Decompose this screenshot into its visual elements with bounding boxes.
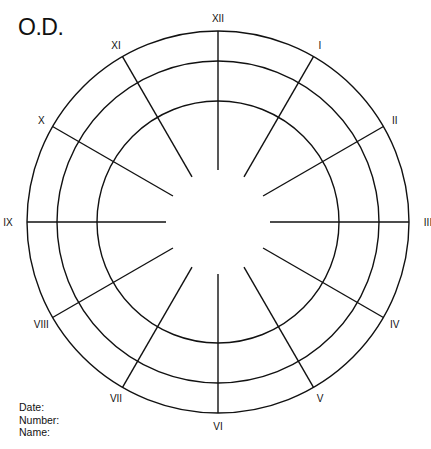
patient-info-block: Date: Number: Name: <box>19 401 59 439</box>
spoke-ii <box>263 127 383 197</box>
name-label: Name: <box>19 426 59 439</box>
hour-label-xi: XI <box>111 40 120 51</box>
hour-label-iii: III <box>424 217 431 228</box>
spoke-i <box>244 57 314 177</box>
hour-label-vii: VII <box>110 393 122 404</box>
hour-label-i: I <box>319 40 322 51</box>
hour-label-v: V <box>317 393 324 404</box>
clock-hour-spokes <box>27 31 409 413</box>
hour-label-xii: XII <box>212 13 224 24</box>
clock-chart: XIIIIIIIIIVVVIVIIVIIIIXXXI <box>0 0 431 449</box>
spoke-vii <box>123 267 193 387</box>
spoke-x <box>53 127 173 197</box>
number-label: Number: <box>19 414 59 427</box>
spoke-xi <box>123 57 193 177</box>
spoke-v <box>244 267 314 387</box>
hour-label-iv: IV <box>390 319 400 330</box>
hour-label-ix: IX <box>3 217 13 228</box>
hour-label-vi: VI <box>213 421 222 432</box>
spoke-viii <box>53 248 173 318</box>
spoke-iv <box>263 248 383 318</box>
hour-label-x: X <box>38 115 45 126</box>
hour-label-ii: II <box>392 115 398 126</box>
hour-label-viii: VIII <box>34 319 49 330</box>
date-label: Date: <box>19 401 59 414</box>
